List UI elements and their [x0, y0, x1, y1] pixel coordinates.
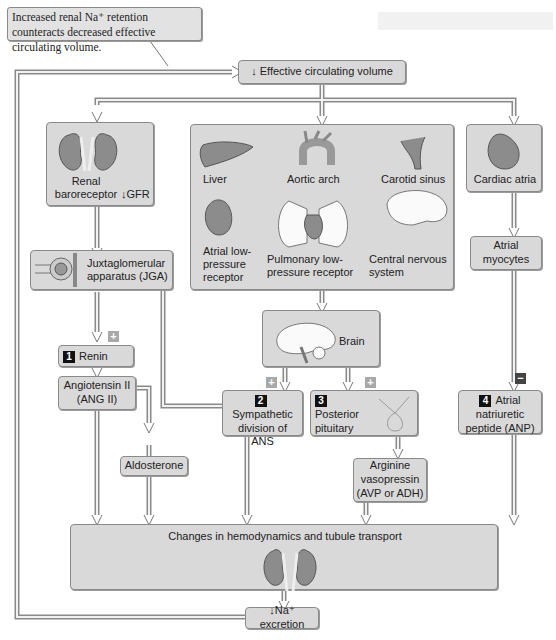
node-renal-baroreceptor: Renal baroreceptor ↓GFR: [46, 122, 154, 206]
sensor-label-carotid-sinus: Carotid sinus: [381, 173, 445, 186]
node-label: Cardiac atria: [467, 173, 543, 186]
node-label: Arginine vasopressin (AVP or ADH): [354, 459, 426, 500]
node-renin: 1Renin: [58, 345, 134, 367]
carotid-sinus-icon: [401, 137, 425, 169]
aortic-arch-icon: [303, 142, 331, 165]
node-label: Renin: [79, 350, 108, 362]
node-label: Renal baroreceptor: [51, 175, 121, 201]
node-sensors: Liver Aortic arch Carotid sinus Atrial l…: [190, 124, 454, 290]
node-label: Angiotensin II (ANG II): [61, 379, 133, 407]
node-label: Atrial myocytes: [471, 239, 541, 267]
node-atrial-myocytes: Atrial myocytes: [470, 236, 542, 270]
node-na-excretion: ↓Na⁺ excretion: [245, 607, 319, 629]
node-brain: Brain: [262, 310, 380, 367]
node-jga: Juxtaglomerular apparatus (JGA): [30, 250, 173, 290]
node-label: Aldosterone: [125, 459, 184, 473]
node-effective-circulating-volume: ↓ Effective circulating volume: [238, 60, 406, 84]
minus-sign-icon: −: [515, 373, 526, 384]
node-label: Na⁺ excretion: [260, 604, 305, 630]
node-sympathetic-ans: 2Sympathetic division of ANS: [222, 390, 303, 436]
step-number-4: 4: [479, 395, 491, 407]
sensor-label-liver: Liver: [203, 173, 227, 186]
node-aldosterone: Aldosterone: [120, 456, 188, 476]
plus-sign-icon: +: [365, 377, 376, 388]
callout-note: Increased renal Na⁺ retention counteract…: [7, 7, 202, 41]
node-label: Brain: [339, 335, 365, 348]
plus-sign-icon: +: [266, 377, 277, 388]
node-label: Atrial natriuretic peptide (ANP): [465, 394, 534, 434]
node-changes-hemodynamics: Changes in hemodynamics and tubule trans…: [70, 524, 498, 590]
sensor-label-aortic-arch: Aortic arch: [287, 173, 340, 186]
plus-sign-icon: +: [108, 331, 119, 342]
brain-icon: [387, 191, 447, 226]
node-label: Effective circulating volume: [260, 65, 393, 77]
kidney-icon: [255, 547, 325, 591]
gfr-label: ↓GFR: [121, 188, 150, 201]
node-cardiac-atria: Cardiac atria: [466, 124, 542, 192]
node-label: Juxtaglomerular apparatus (JGA): [87, 257, 172, 283]
kidney-icon: [47, 127, 153, 177]
node-avp: Arginine vasopressin (AVP or ADH): [353, 458, 427, 502]
liver-icon: [200, 142, 253, 167]
node-angiotensin-ii: Angiotensin II (ANG II): [58, 376, 136, 410]
node-posterior-pituitary: 3Posterior pituitary: [310, 390, 418, 436]
step-number-1: 1: [63, 351, 75, 363]
heart-icon: [205, 200, 231, 235]
step-number-2: 2: [255, 395, 267, 407]
sensor-label-pulmonary-low: Pulmonary low-pressure receptor: [267, 253, 367, 279]
pituitary-icon: [375, 393, 415, 433]
heart-icon: [467, 127, 543, 171]
glomerulus-icon: [33, 251, 83, 289]
brain-icon: [271, 313, 341, 365]
node-label: Posterior pituitary: [315, 408, 359, 434]
step-number-3: 3: [315, 395, 327, 407]
down-arrow-icon: ↓: [251, 65, 257, 77]
node-label: Changes in hemodynamics and tubule trans…: [71, 530, 499, 543]
sensor-label-atrial-low: Atrial low-pressure receptor: [203, 245, 259, 284]
sensor-label-cns: Central nervous system: [369, 253, 453, 279]
node-anp: 4Atrial natriuretic peptide (ANP): [458, 390, 542, 434]
